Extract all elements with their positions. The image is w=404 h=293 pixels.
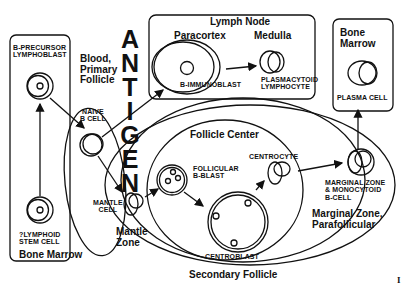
- antigen-letter: A: [119, 27, 141, 51]
- antigen-letter: G: [119, 123, 141, 147]
- antigen-letter: T: [119, 75, 141, 99]
- antigen-letter: N: [119, 171, 141, 195]
- lymph-node-label: Lymph Node: [210, 17, 270, 28]
- b-immunoblast-label: B-IMMUNOBLAST: [180, 81, 241, 88]
- paracortex-label: Paracortex: [174, 31, 226, 42]
- marginal-zone-cell-label: MARGINAL ZONE & MONOCYTOID B-CELL: [325, 179, 385, 201]
- centrocyte-label: CENTROCYTE: [249, 153, 298, 160]
- mantle-zone-label: Mantle Zone: [116, 227, 148, 248]
- medulla-label: Medulla: [254, 31, 291, 42]
- centroblast-label: CENTROBLAST: [205, 253, 259, 260]
- bone-marrow-left-label: Bone Marrow: [19, 250, 82, 261]
- antigen-letter: I: [119, 99, 141, 123]
- antigen-letter: N: [119, 51, 141, 75]
- follicular-b-blast-label: FOLLICULAR B-BLAST: [193, 165, 239, 180]
- plasmacytoid-label: PLASMACYTOID LYMPHOCYTE: [261, 76, 318, 91]
- secondary-follicle-label: Secondary Follicle: [189, 270, 277, 281]
- marginal-zone-label: Marginal Zone, Parafollicular: [312, 209, 383, 230]
- bone-marrow-right-label: Bone Marrow: [340, 28, 376, 49]
- follicle-center-ellipse: [147, 120, 303, 260]
- lymphoid-stem-label: ?LYMPHOID STEM CELL: [19, 231, 60, 246]
- plasma-cell-label: PLASMA CELL: [337, 94, 388, 101]
- blood-primary-follicle-label: Blood, Primary Follicle: [80, 54, 117, 86]
- naive-b-cell-label: NAIVE B CELL: [80, 108, 106, 123]
- antigen-label: A N T I G E N: [119, 27, 141, 195]
- follicle-center-label: Follicle Center: [190, 130, 259, 141]
- mantle-cell-label: MANTLE CELL: [93, 199, 123, 214]
- b-precursor-label: B-PRECURSOR LYMPHOBLAST: [13, 44, 67, 59]
- antigen-letter: E: [119, 147, 141, 171]
- corner-mark: I: [397, 276, 401, 285]
